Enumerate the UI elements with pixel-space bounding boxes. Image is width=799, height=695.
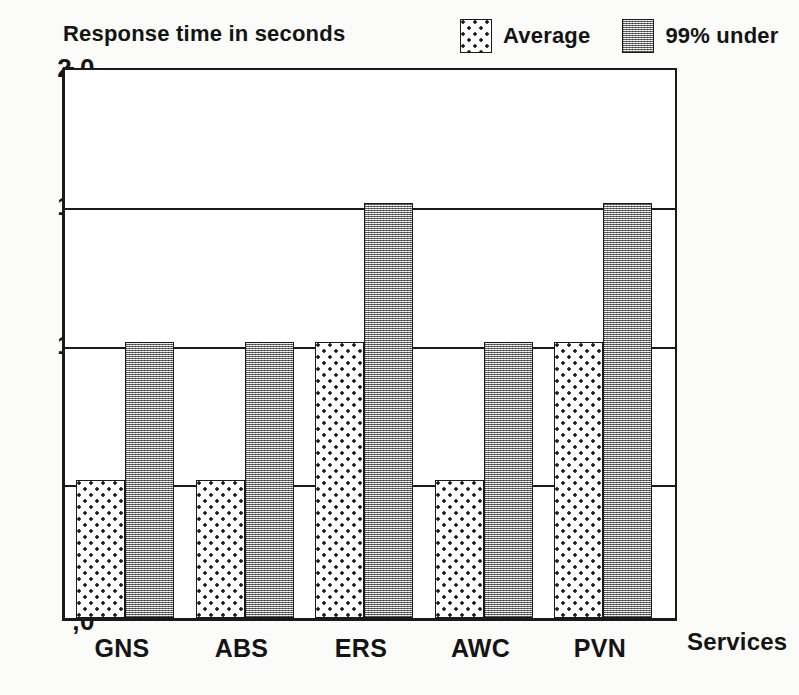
bar-pvn-p99: [603, 203, 652, 618]
x-tick-label-gns: GNS: [94, 634, 149, 663]
x-axis-title: Services: [687, 628, 787, 656]
legend-label-average: Average: [503, 23, 590, 49]
x-tick-label-abs: ABS: [215, 634, 269, 663]
bar-ers-average: [315, 342, 364, 619]
bar-abs-p99: [245, 342, 294, 619]
x-tick-label-ers: ERS: [335, 634, 387, 663]
legend-entry-average: Average: [460, 19, 590, 53]
legend-swatch-average: [460, 19, 492, 53]
legend-label-p99: 99% under: [665, 23, 778, 49]
bar-abs-average: [196, 480, 245, 618]
chart-legend: Average 99% under: [460, 14, 778, 58]
bar-gns-p99: [125, 342, 174, 619]
bar-pvn-average: [554, 342, 603, 619]
bar-gns-average: [76, 480, 125, 618]
x-tick-label-awc: AWC: [451, 634, 510, 663]
plot-area: [62, 68, 677, 621]
chart-page: Average 99% under Response time in secon…: [0, 0, 799, 695]
legend-entry-p99: 99% under: [622, 19, 778, 53]
y-axis-title: Response time in seconds: [63, 21, 345, 47]
bar-awc-p99: [484, 342, 533, 619]
bar-ers-p99: [364, 203, 413, 618]
legend-swatch-p99: [622, 19, 654, 53]
bar-awc-average: [435, 480, 484, 618]
x-tick-label-pvn: PVN: [574, 634, 626, 663]
